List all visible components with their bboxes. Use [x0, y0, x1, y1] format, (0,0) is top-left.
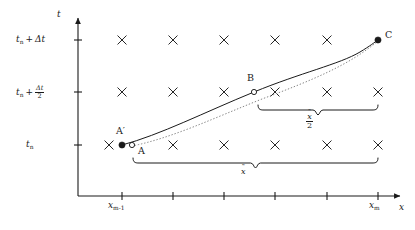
grid-cross — [323, 36, 331, 44]
grid-cross — [220, 88, 228, 96]
x-axis-name: x — [399, 203, 404, 212]
x-subscript-m: m — [374, 204, 380, 211]
plus-sign: + — [25, 34, 33, 44]
y-tick-label-t-n: tn — [26, 140, 33, 150]
x-tick-label-x-m-minus-1: xm-1 — [108, 201, 125, 211]
point-label-A-prime: A′ — [116, 126, 125, 136]
brace-label-x-tilde-half: ˜x2 — [306, 113, 313, 130]
point-marker-B — [251, 89, 256, 94]
x-subscript-m-minus-1: m-1 — [113, 204, 124, 211]
fraction-denominator: 2 — [35, 93, 44, 100]
point-marker-A-prime — [119, 142, 125, 148]
grid-cross — [374, 88, 382, 96]
y-axis-name: t — [57, 10, 61, 19]
grid-cross-marks — [105, 36, 382, 149]
fraction-denominator: 2 — [306, 122, 313, 130]
grid-cross — [220, 141, 228, 149]
fraction-numerator: ˜x — [306, 113, 313, 122]
brace-x-tilde — [133, 158, 378, 168]
delta-t-symbol: Δt — [35, 34, 45, 44]
tilde-accent: ˜ — [308, 109, 312, 116]
point-markers — [119, 37, 381, 148]
grid-cross — [271, 88, 279, 96]
tilde-accent: ˜ — [241, 164, 245, 171]
grid-cross — [323, 88, 331, 96]
x-tilde-glyph: ˜x — [307, 113, 312, 121]
x-tilde-glyph: ˜x — [241, 168, 246, 176]
x-tilde-half-fraction: ˜x2 — [306, 113, 313, 130]
grid-cross — [374, 141, 382, 149]
point-label-C: C — [385, 30, 392, 40]
figure-root: tn tn+Δt2 tn+Δt xm-1 xm x t A′ A B C ˜x … — [0, 0, 415, 230]
brace-label-x-tilde: ˜x — [241, 168, 246, 176]
grid-cross — [169, 141, 177, 149]
half-delta-t-fraction: Δt2 — [35, 85, 44, 99]
grid-cross — [105, 141, 113, 149]
t-subscript-n: n — [30, 143, 34, 150]
point-label-A: A — [138, 146, 145, 156]
trajectory-curves — [122, 40, 378, 146]
plus-sign: + — [25, 87, 33, 97]
axis-lines — [78, 18, 400, 196]
grid-cross — [118, 88, 126, 96]
grid-cross — [169, 88, 177, 96]
brace-x-tilde-half — [258, 105, 378, 115]
grid-cross — [271, 36, 279, 44]
point-marker-C — [375, 37, 381, 43]
y-tick-label-t-n-half-dt: tn+Δt2 — [16, 85, 44, 99]
diagram-canvas — [0, 0, 415, 230]
grid-cross — [118, 36, 126, 44]
x-tick-label-x-m: xm — [369, 201, 380, 211]
grid-cross — [220, 36, 228, 44]
grid-cross — [169, 36, 177, 44]
curve-solid-trajectory — [122, 40, 378, 145]
t-subscript-n: n — [20, 91, 24, 98]
point-marker-A — [129, 142, 134, 147]
y-tick-label-t-n-dt: tn+Δt — [16, 35, 45, 45]
grid-cross — [271, 141, 279, 149]
dimension-braces — [133, 105, 378, 168]
point-label-B: B — [247, 73, 254, 83]
grid-cross — [323, 141, 331, 149]
t-subscript-n: n — [20, 38, 24, 45]
